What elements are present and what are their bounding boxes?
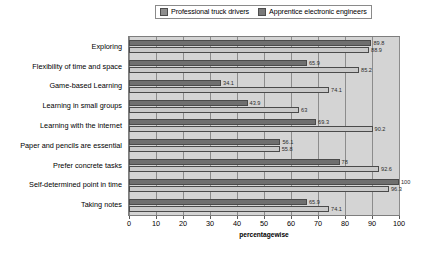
bar-value-label: 43.9	[248, 100, 261, 106]
bar-value-label: 55.8	[280, 146, 293, 152]
bar-1[interactable]	[129, 206, 329, 212]
legend-item-label: Professional truck drivers	[171, 7, 249, 16]
bar-value-label: 100	[399, 179, 410, 185]
x-axis-tick-label: 100	[393, 219, 405, 228]
bar-group: 65.985.2	[129, 57, 399, 77]
bar-group: 43.963	[129, 96, 399, 116]
bar-slot: 65.9	[129, 60, 399, 66]
category-label: Learning with the internet	[40, 121, 122, 130]
bar-value-label: 92.6	[379, 166, 392, 172]
bar-slot: 92.6	[129, 166, 399, 172]
legend-swatch-icon	[258, 8, 266, 16]
category-label: Game-based Learning	[49, 81, 122, 90]
bar-slot: 100	[129, 179, 399, 185]
bar-value-label: 74.1	[329, 87, 342, 93]
bar-value-label: 90.2	[373, 126, 386, 132]
bar-1[interactable]	[129, 186, 389, 192]
x-axis-tick-label: 80	[341, 219, 349, 228]
x-axis-tick-label: 50	[260, 219, 268, 228]
x-axis-title: percentagewise	[128, 230, 400, 239]
category-label: Prefer concrete tasks	[53, 160, 122, 169]
bar-value-label: 88.9	[369, 47, 382, 53]
category-label: Paper and pencils are essential	[20, 140, 122, 149]
bar-1[interactable]	[129, 67, 359, 73]
bar-value-label: 65.9	[307, 199, 320, 205]
bar-slot: 90.2	[129, 126, 399, 132]
x-axis-tick-label: 20	[179, 219, 187, 228]
bar-value-label: 74.1	[329, 206, 342, 212]
bar-1[interactable]	[129, 146, 280, 152]
bar-value-label: 34.1	[221, 80, 234, 86]
legend-item-1[interactable]: Apprentice electronic engineers	[258, 7, 367, 16]
x-axis-tick-label: 0	[127, 219, 131, 228]
bar-group: 34.174.1	[129, 77, 399, 97]
bar-value-label: 85.2	[359, 67, 372, 73]
bar-slot: 96.3	[129, 186, 399, 192]
bar-group: 10096.3	[129, 175, 399, 195]
bar-group: 7892.6	[129, 156, 399, 176]
bar-group: 89.888.9	[129, 37, 399, 57]
bar-value-label: 63	[299, 107, 307, 113]
bar-0[interactable]	[129, 100, 248, 106]
x-axis-tick-label: 30	[206, 219, 214, 228]
bar-group: 56.155.8	[129, 136, 399, 156]
bar-0[interactable]	[129, 60, 307, 66]
category-label: Exploring	[92, 41, 122, 50]
bar-slot: 34.1	[129, 80, 399, 86]
x-axis-tick-label: 70	[314, 219, 322, 228]
bar-1[interactable]	[129, 47, 369, 53]
legend-item-label: Apprentice electronic engineers	[269, 7, 367, 16]
category-label: Taking notes	[81, 200, 122, 209]
bar-0[interactable]	[129, 80, 221, 86]
x-axis-tick-label: 60	[287, 219, 295, 228]
bar-1[interactable]	[129, 87, 329, 93]
bar-1[interactable]	[129, 107, 299, 113]
x-axis-tick-label: 40	[233, 219, 241, 228]
bar-0[interactable]	[129, 40, 371, 46]
bar-slot: 65.9	[129, 199, 399, 205]
category-label: Self-determined point in time	[29, 180, 122, 189]
bar-rows: 89.888.965.985.234.174.143.96369.390.256…	[129, 37, 399, 215]
bar-slot: 74.1	[129, 87, 399, 93]
bar-0[interactable]	[129, 199, 307, 205]
bar-1[interactable]	[129, 126, 373, 132]
bar-value-label: 78	[340, 159, 348, 165]
bar-slot: 78	[129, 159, 399, 165]
x-axis: 0102030405060708090100	[128, 216, 400, 228]
bar-slot: 56.1	[129, 139, 399, 145]
bar-0[interactable]	[129, 139, 280, 145]
bar-0[interactable]	[129, 159, 340, 165]
category-axis-labels: ExploringFlexibility of time and spaceGa…	[0, 36, 126, 216]
x-axis-tick-label: 90	[368, 219, 376, 228]
bar-slot: 43.9	[129, 100, 399, 106]
bar-slot: 85.2	[129, 67, 399, 73]
bar-slot: 69.3	[129, 119, 399, 125]
bar-slot: 88.9	[129, 47, 399, 53]
bar-slot: 55.8	[129, 146, 399, 152]
bar-value-label: 56.1	[280, 139, 293, 145]
bar-value-label: 69.3	[316, 119, 329, 125]
bar-group: 69.390.2	[129, 116, 399, 136]
x-axis-tick-label: 10	[152, 219, 160, 228]
bar-slot: 74.1	[129, 206, 399, 212]
category-label: Learning in small groups	[43, 101, 123, 110]
bar-group: 65.974.1	[129, 195, 399, 215]
chart-legend: Professional truck driversApprentice ele…	[155, 5, 372, 19]
bar-slot: 89.8	[129, 40, 399, 46]
bar-chart: Professional truck driversApprentice ele…	[0, 0, 429, 263]
bar-0[interactable]	[129, 119, 316, 125]
category-label: Flexibility of time and space	[32, 61, 122, 70]
bar-0[interactable]	[129, 179, 399, 185]
plot-area: 89.888.965.985.234.174.143.96369.390.256…	[128, 36, 400, 216]
bar-1[interactable]	[129, 166, 379, 172]
legend-swatch-icon	[160, 8, 168, 16]
bar-value-label: 96.3	[389, 186, 402, 192]
bar-value-label: 89.8	[371, 40, 384, 46]
bar-value-label: 65.9	[307, 60, 320, 66]
legend-item-0[interactable]: Professional truck drivers	[160, 7, 249, 16]
bar-slot: 63	[129, 107, 399, 113]
